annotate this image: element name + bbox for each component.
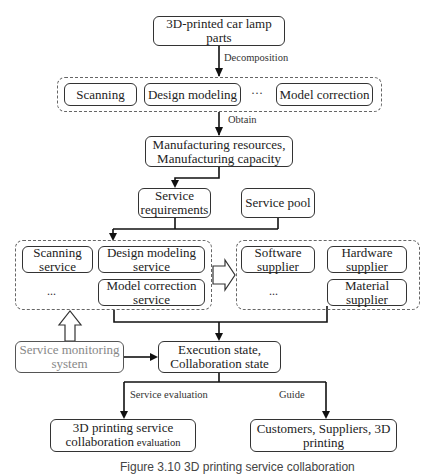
service-requirements-line2: requirements (141, 203, 209, 217)
decomposition-ellipsis: ··· (251, 86, 263, 101)
service-requirements-line1: Service (155, 189, 194, 203)
service-requirements-node: Service requirements (138, 188, 211, 218)
design-modeling-node: Design modeling (144, 83, 241, 106)
car-lamp-parts-node: 3D-printed car lamp parts (153, 16, 285, 46)
service-monitoring-line2: system (51, 357, 87, 371)
hardware-supplier-line2: supplier (346, 260, 388, 274)
scanning-service-line2: service (39, 260, 76, 274)
decomposition-label: Decomposition (224, 52, 288, 63)
scanning-text: Scanning (76, 88, 124, 102)
design-modeling-service-line2: service (133, 260, 170, 274)
material-supplier-node: Material supplier (327, 279, 407, 306)
service-pool-text: Service pool (245, 196, 310, 210)
design-modeling-text: Design modeling (148, 88, 237, 102)
service-monitoring-node: Service monitoring system (15, 341, 124, 373)
software-supplier-line1: Software (255, 246, 302, 260)
model-correction-text: Model correction (280, 88, 370, 102)
obtain-label: Obtain (228, 114, 257, 125)
execution-line1: Execution state, (178, 343, 261, 357)
service-group-ellipsis: ... (47, 284, 56, 299)
model-correction-service-node: Model correction service (98, 279, 205, 306)
model-correction-service-line1: Model correction (107, 279, 197, 293)
service-monitoring-line1: Service monitoring (19, 343, 119, 357)
manufacturing-node: Manufacturing resources, Manufacturing c… (145, 136, 293, 167)
model-correction-node: Model correction (276, 83, 373, 106)
evaluation-line1: 3D printing service (73, 421, 173, 435)
execution-state-node: Execution state, Collaboration state (158, 341, 281, 373)
hardware-supplier-node: Hardware supplier (327, 246, 407, 273)
customers-suppliers-node: Customers, Suppliers, 3D printing (250, 419, 397, 452)
material-supplier-line1: Material (345, 279, 389, 293)
design-modeling-service-node: Design modeling service (98, 246, 205, 273)
software-supplier-line2: supplier (257, 260, 299, 274)
scanning-service-line1: Scanning (33, 246, 81, 260)
scanning-service-node: Scanning service (22, 246, 93, 273)
guide-label: Guide (279, 389, 305, 400)
model-correction-service-line2: service (133, 293, 170, 307)
manufacturing-line2: Manufacturing capacity (157, 152, 281, 166)
evaluation-line2a: collaboration (66, 434, 135, 449)
customers-line1: Customers, Suppliers, 3D (257, 422, 391, 436)
execution-line2: Collaboration state (170, 357, 269, 371)
car-lamp-parts-text: 3D-printed car lamp parts (156, 17, 282, 45)
supplier-group-ellipsis: ... (269, 284, 278, 299)
figure-caption: Figure 3.10 3D printing service collabor… (120, 460, 355, 474)
software-supplier-node: Software supplier (241, 246, 315, 273)
evaluation-line2b: evaluation (134, 437, 180, 448)
customers-line2: printing (303, 436, 344, 450)
design-modeling-service-line1: Design modeling (107, 246, 196, 260)
scanning-node: Scanning (64, 83, 137, 106)
service-evaluation-label: Service evaluation (130, 389, 208, 400)
service-pool-node: Service pool (241, 188, 315, 218)
material-supplier-line2: supplier (346, 293, 388, 307)
evaluation-line2: collaboration evaluation (66, 435, 181, 450)
hardware-supplier-line1: Hardware (341, 246, 392, 260)
collaboration-evaluation-node: 3D printing service collaboration evalua… (50, 419, 196, 452)
manufacturing-line1: Manufacturing resources, (153, 138, 286, 152)
